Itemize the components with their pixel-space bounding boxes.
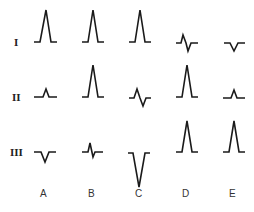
wave-ii-a bbox=[34, 89, 57, 97]
wave-iii-d bbox=[176, 121, 198, 152]
row-label-ii: II bbox=[12, 91, 21, 103]
column-label-c: C bbox=[135, 188, 142, 199]
wave-i-b bbox=[82, 10, 104, 42]
row-label-i: I bbox=[14, 36, 18, 48]
wave-iii-a bbox=[34, 152, 56, 162]
wave-i-d bbox=[176, 35, 198, 51]
wave-i-c bbox=[129, 10, 151, 42]
wave-ii-b bbox=[82, 65, 104, 97]
wave-iii-c bbox=[128, 153, 150, 187]
wave-i-a bbox=[34, 10, 57, 42]
column-label-e: E bbox=[229, 188, 236, 199]
wave-ii-e bbox=[223, 90, 245, 98]
column-label-a: A bbox=[40, 188, 47, 199]
wave-iii-b bbox=[82, 143, 103, 157]
row-label-iii: III bbox=[10, 146, 23, 158]
wave-ii-c bbox=[129, 89, 151, 106]
wave-ii-d bbox=[176, 65, 198, 97]
column-label-d: D bbox=[182, 188, 189, 199]
column-label-b: B bbox=[88, 188, 95, 199]
wave-iii-e bbox=[223, 121, 245, 152]
ecg-diagram: I II III A B C D E bbox=[0, 0, 254, 212]
wave-i-e bbox=[224, 43, 245, 51]
